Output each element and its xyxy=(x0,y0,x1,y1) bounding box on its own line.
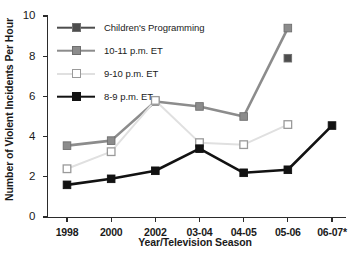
legend-marker xyxy=(72,23,81,32)
data-point-marker xyxy=(152,167,160,175)
legend-label: 9-10 p.m. ET xyxy=(104,68,158,79)
legend-label: 8-9 p.m. ET xyxy=(104,91,153,102)
data-point-marker xyxy=(63,181,71,189)
legend-swatch xyxy=(57,91,95,103)
data-point-marker xyxy=(284,166,292,174)
series-1 xyxy=(284,54,292,62)
chart-legend: Children's Programming10-11 p.m. ET9-10 … xyxy=(57,16,237,108)
data-point-marker xyxy=(63,165,71,173)
legend-label: 10-11 p.m. ET xyxy=(104,45,163,56)
y-tick-label: 6 xyxy=(29,88,35,104)
legend-item: 8-9 p.m. ET xyxy=(57,85,237,108)
legend-item: 10-11 p.m. ET xyxy=(57,39,237,62)
legend-item: 9-10 p.m. ET xyxy=(57,62,237,85)
y-axis-title: Number of Violent Incidents Per Hour xyxy=(0,0,18,219)
data-point-marker xyxy=(63,142,71,150)
data-point-marker xyxy=(240,141,248,149)
legend-item: Children's Programming xyxy=(57,16,237,39)
legend-swatch xyxy=(57,22,95,34)
legend-marker xyxy=(72,92,81,101)
y-tick-label: 10 xyxy=(23,7,36,23)
y-tick-label: 2 xyxy=(29,168,35,184)
data-point-marker xyxy=(107,137,115,145)
legend-swatch xyxy=(57,45,95,57)
data-point-marker xyxy=(284,24,292,32)
data-point-marker xyxy=(107,175,115,183)
legend-marker xyxy=(72,46,81,55)
data-point-marker xyxy=(240,113,248,121)
data-point-marker xyxy=(284,54,292,62)
data-point-marker xyxy=(107,148,115,156)
legend-swatch xyxy=(57,68,95,80)
data-point-marker xyxy=(328,122,336,130)
legend-marker xyxy=(72,69,81,78)
y-tick-label: 4 xyxy=(29,128,35,144)
data-point-marker xyxy=(240,169,248,177)
x-axis-title: Year/Television Season xyxy=(40,236,350,248)
data-point-marker xyxy=(284,121,292,129)
violent-incidents-line-chart: Number of Violent Incidents Per Hour 024… xyxy=(0,0,356,259)
data-point-marker xyxy=(196,145,204,153)
y-tick-label: 8 xyxy=(29,48,35,64)
series-3 xyxy=(63,97,291,173)
legend-label: Children's Programming xyxy=(104,22,205,33)
y-tick-label: 0 xyxy=(29,208,35,224)
